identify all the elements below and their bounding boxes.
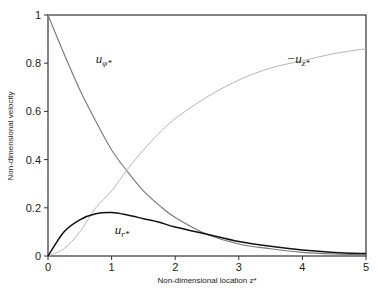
curve-label-ur: ur* <box>115 222 130 239</box>
y-tick-label: 0.2 <box>26 202 41 214</box>
x-tick-label: 3 <box>236 261 242 273</box>
curve-label-uz: −uz* <box>287 51 311 68</box>
curve-label-uphi: uφ* <box>96 51 112 68</box>
x-tick-label: 2 <box>172 261 178 273</box>
curve-ur <box>48 213 366 256</box>
x-tick-label: 4 <box>299 261 305 273</box>
y-tick-label: 0.4 <box>26 154 41 166</box>
y-tick-label: 0.6 <box>26 105 41 117</box>
y-axis-title: Non-dimensional velocity <box>6 92 15 181</box>
y-tick-label: 0.8 <box>26 57 41 69</box>
velocity-profile-chart: 01234500.20.40.60.81 uφ*−uz*ur* Non-dime… <box>0 0 378 291</box>
x-axis-title: Non-dimensional location z* <box>157 276 256 285</box>
y-tick-label: 1 <box>35 9 41 21</box>
y-tick-label: 0 <box>35 250 41 262</box>
curve-uz <box>48 49 366 256</box>
axis-ticks: 01234500.20.40.60.81 <box>26 9 369 273</box>
x-tick-label: 1 <box>109 261 115 273</box>
x-tick-label: 5 <box>363 261 369 273</box>
curve-labels: uφ*−uz*ur* <box>96 51 311 239</box>
x-tick-label: 0 <box>45 261 51 273</box>
